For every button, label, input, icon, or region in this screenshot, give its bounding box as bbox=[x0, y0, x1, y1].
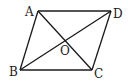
edge-dc bbox=[92, 11, 111, 70]
vertex-label-c: C bbox=[94, 67, 103, 81]
vertex-label-a: A bbox=[24, 5, 34, 19]
vertex-label-d: D bbox=[113, 7, 123, 21]
center-label-o: O bbox=[60, 44, 70, 58]
edge-ba bbox=[20, 11, 38, 70]
diagonal-bd bbox=[20, 11, 111, 70]
parallelogram-diagram: A D C B O bbox=[0, 0, 128, 81]
vertex-label-b: B bbox=[9, 65, 18, 79]
